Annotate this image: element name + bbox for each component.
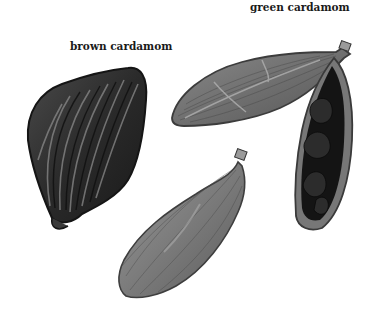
brown-cardamom-pod: [28, 68, 146, 229]
cardamom-illustration: green cardamom brown cardamom: [0, 0, 366, 313]
green-cardamom-pod-whole: [119, 149, 247, 298]
